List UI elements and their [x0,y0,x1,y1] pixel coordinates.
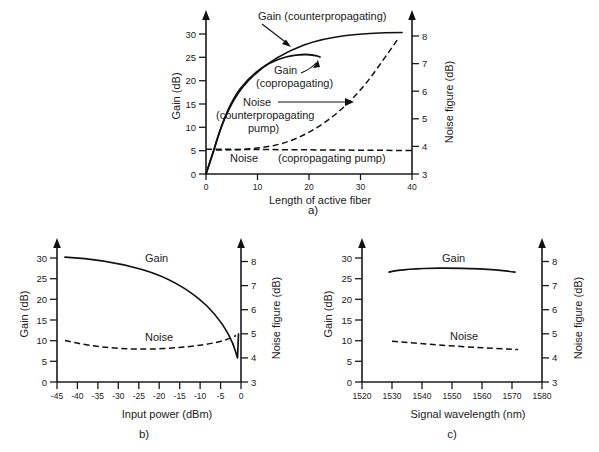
chart-a-ylabel-left: Gain (dB) [170,72,182,119]
chart-a-ytick-left-20: 20 [185,75,196,86]
figure-root: 0 5 10 15 20 25 30 Gain (dB) 0 10 20 [0,0,599,452]
chart-a-curve-noise-counterpropagating-pump [216,39,398,150]
chart-b-x-axis: -45 -40 -35 -30 -25 -20 -15 -10 -5 0 Inp… [51,382,244,420]
chart-a-annotation-noise-counter-l1: Noise [243,96,271,108]
chart-a-ytick-right-8: 8 [422,31,427,42]
chart-b-left-axis: 0 5 10 15 20 25 30 Gain (dB) [18,238,61,388]
chart-a-ytick-left-25: 25 [185,52,196,63]
chart-c-xtick-1550: 1550 [443,391,462,401]
chart-c-ytick-right-7: 7 [552,280,557,291]
chart-a-annotation-gain-counterpropagating: Gain (counterpropagating) [258,10,386,22]
chart-b-ytick-left-10: 10 [36,335,47,346]
chart-b-ytick-left-0: 0 [42,377,47,388]
chart-c-ytick-left-15: 15 [341,315,352,326]
chart-c-svg: 0 5 10 15 20 25 30 Gain (dB) 1520 [300,214,598,442]
chart-c-ytick-left-20: 20 [341,294,352,305]
chart-b-ytick-right-6: 6 [251,304,256,315]
chart-c-ytick-right-8: 8 [552,256,557,267]
chart-a-annotation-noise-copropagating-left: Noise [230,152,258,164]
chart-b-ytick-left-25: 25 [36,273,47,284]
chart-a-leader-gain-counter [262,24,288,44]
chart-c-xtick-1530: 1530 [383,391,402,401]
chart-a-ytick-left-30: 30 [185,29,196,40]
chart-a-annotation-gain-copropagating-l2: (copropagating) [256,77,333,89]
chart-b-ylabel-right: Noise figure (dB) [270,277,282,360]
chart-a-ytick-right-7: 7 [422,58,427,69]
chart-c-xtick-1560: 1560 [473,391,492,401]
chart-b-xtick--5: -5 [217,391,225,401]
chart-a-ytick-left-10: 10 [185,122,196,133]
chart-a-ytick-left-15: 15 [185,99,196,110]
chart-a-annotation-noise-copropagating-right: (copropagating pump) [278,152,386,164]
chart-b-ytick-left-20: 20 [36,294,47,305]
chart-c-ytick-left-10: 10 [341,335,352,346]
chart-b-xtick--35: -35 [92,391,105,401]
chart-a-x-axis: 0 10 20 30 40 Length of active fiber [204,174,417,206]
chart-a-xtick-10: 10 [253,182,263,192]
chart-c-ytick-left-0: 0 [347,377,352,388]
chart-panel-c: 0 5 10 15 20 25 30 Gain (dB) 1520 [300,214,598,442]
chart-b-xtick--30: -30 [112,391,125,401]
chart-c-xtick-1580: 1580 [533,391,552,401]
chart-b-ytick-left-15: 15 [36,315,47,326]
chart-b-annotation-noise: Noise [145,331,173,343]
chart-c-xlabel: Signal wavelength (nm) [411,408,526,420]
chart-c-ylabel-left: Gain (dB) [322,290,334,337]
chart-a-ytick-right-6: 6 [422,86,427,97]
chart-a-xtick-30: 30 [356,182,366,192]
chart-c-ytick-left-30: 30 [341,253,352,264]
chart-b-curve-gain-tail [233,334,239,358]
chart-panel-a: 0 5 10 15 20 25 30 Gain (dB) 0 10 20 [168,2,468,216]
chart-b-ytick-left-5: 5 [42,356,47,367]
chart-a-left-axis: 0 5 10 15 20 25 30 Gain (dB) [170,10,210,180]
chart-a-svg: 0 5 10 15 20 25 30 Gain (dB) 0 10 20 [168,2,468,216]
chart-a-leader-gain-co [301,63,316,73]
chart-b-xtick--25: -25 [133,391,146,401]
chart-a-annotation-noise-counter-l3: pump) [248,122,279,134]
chart-b-xtick--40: -40 [71,391,84,401]
chart-a-xlabel: Length of active fiber [269,194,371,206]
chart-panel-b: 0 5 10 15 20 25 30 Gain (dB) [2,214,298,442]
chart-a-annotation-noise-counter-l2: (counterpropagating [216,109,314,121]
chart-c-annotation-noise: Noise [450,330,478,342]
chart-a-right-axis: 3 4 5 6 7 8 Noise figure (dB) [408,10,455,180]
chart-c-left-axis: 0 5 10 15 20 25 30 Gain (dB) [322,238,366,388]
chart-b-xtick--45: -45 [51,391,64,401]
chart-b-ytick-right-3: 3 [251,377,256,388]
chart-c-ytick-left-25: 25 [341,273,352,284]
figure-caption-strip [0,437,599,452]
chart-a-annotation-gain-copropagating-l1: Gain [274,64,297,76]
chart-a-xtick-20: 20 [304,182,314,192]
chart-c-x-axis: 1520 1530 1540 1550 1560 1570 1580 Signa… [353,382,552,420]
chart-b-ytick-left-30: 30 [36,253,47,264]
chart-a-ylabel-right: Noise figure (dB) [443,61,455,144]
chart-c-xtick-1540: 1540 [413,391,432,401]
chart-a-ytick-left-5: 5 [191,145,196,156]
chart-a-ytick-right-4: 4 [422,141,427,152]
chart-b-ytick-right-7: 7 [251,280,256,291]
chart-b-ytick-right-5: 5 [251,328,256,339]
chart-c-ytick-right-4: 4 [552,352,557,363]
chart-c-ytick-left-5: 5 [347,356,352,367]
chart-c-ytick-right-6: 6 [552,304,557,315]
chart-b-xtick--15: -15 [174,391,187,401]
chart-b-ytick-right-4: 4 [251,352,256,363]
chart-a-ytick-left-0: 0 [191,169,196,180]
chart-a-xtick-40: 40 [407,182,417,192]
chart-b-ytick-right-8: 8 [251,256,256,267]
chart-a-arrowhead-noise-counter [345,98,354,106]
chart-b-svg: 0 5 10 15 20 25 30 Gain (dB) [2,214,298,442]
chart-b-ylabel-left: Gain (dB) [18,290,30,337]
chart-b-xtick-0: 0 [239,391,244,401]
chart-c-xtick-1520: 1520 [353,391,372,401]
chart-c-xtick-1570: 1570 [503,391,522,401]
chart-c-ytick-right-5: 5 [552,328,557,339]
chart-a-arrowhead-gain-co [313,60,320,68]
chart-a-xtick-0: 0 [204,182,209,192]
chart-b-xlabel: Input power (dBm) [122,408,212,420]
chart-a-ytick-right-5: 5 [422,113,427,124]
chart-b-xtick--10: -10 [194,391,207,401]
chart-c-curve-gain [389,268,515,272]
chart-c-annotation-gain: Gain [442,252,465,264]
chart-c-right-axis: 3 4 5 6 7 8 Noise figure (dB) [538,238,584,388]
